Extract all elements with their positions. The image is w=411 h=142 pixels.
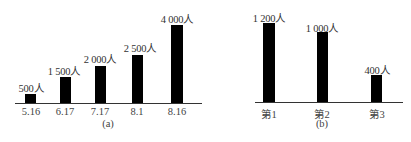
chart-a-tick-label-5: 8.16 xyxy=(168,106,186,117)
chart-a-tick-label-3: 7.17 xyxy=(91,106,109,117)
chart-a-bar-2 xyxy=(60,77,71,103)
chart-a-bar-5 xyxy=(171,25,183,103)
chart-a-value-label-5: 4 000人 xyxy=(161,11,193,26)
chart-b-bar-1 xyxy=(263,23,275,102)
chart-b-baseline xyxy=(255,102,403,103)
chart-a-value-label-1: 500人 xyxy=(19,80,44,95)
chart-b-bar-2 xyxy=(317,32,328,102)
chart-a-caption: (a) xyxy=(102,118,114,129)
chart-b-value-label-3: 400人 xyxy=(365,62,390,77)
chart-a-tick-label-2: 6.17 xyxy=(56,106,74,117)
chart-a-value-label-3: 2 000人 xyxy=(84,51,116,66)
chart-a-tick-label-1: 5.16 xyxy=(22,106,40,117)
chart-a-baseline xyxy=(15,103,202,104)
chart-a-bar-3 xyxy=(95,66,106,103)
chart-b-bar-3 xyxy=(371,75,382,102)
chart-a: 500人 5.16 1 500人 6.17 2 000人 7.17 2 500人… xyxy=(0,0,205,142)
chart-a-bar-4 xyxy=(132,55,143,103)
chart-a-value-label-2: 1 500人 xyxy=(48,63,80,78)
chart-b-value-label-2: 1 000人 xyxy=(306,20,338,35)
chart-a-bar-1 xyxy=(25,94,36,103)
chart-b-caption: (b) xyxy=(316,118,328,129)
chart-b-tick-label-3: 第3 xyxy=(369,106,384,121)
chart-a-tick-label-4: 8.1 xyxy=(130,106,143,117)
chart-a-value-label-4: 2 500人 xyxy=(124,40,156,55)
chart-b-tick-label-1: 第1 xyxy=(261,106,276,121)
chart-b: 1 200人 第1 1 000人 第2 400人 第3 (b) xyxy=(205,0,411,142)
chart-b-value-label-1: 1 200人 xyxy=(253,10,285,25)
